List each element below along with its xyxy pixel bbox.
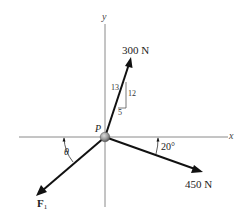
point-P	[100, 132, 110, 142]
point-P-label: P	[95, 124, 101, 134]
arrowhead-icon	[36, 185, 47, 196]
force-F1-arrow	[36, 137, 105, 196]
y-axis-label: y	[102, 12, 106, 22]
slope-vertical-label: 12	[128, 90, 136, 98]
force-450N-arrow	[105, 137, 203, 173]
arrowhead-icon	[191, 165, 203, 173]
force-F1-subscript: 1	[44, 203, 48, 211]
slope-horizontal-label: 5	[118, 109, 122, 117]
force-F1-label: F1	[37, 198, 47, 211]
arc-arrow-icon	[157, 138, 160, 142]
angle-20-label: 20°	[161, 142, 175, 152]
slope-hypotenuse-label: 13	[111, 84, 119, 92]
force-300N-label: 300 N	[122, 45, 149, 56]
angle-theta-label: θ	[64, 147, 69, 157]
diagram-svg	[0, 0, 248, 224]
arrowhead-icon	[125, 57, 133, 68]
force-450N-label: 450 N	[185, 179, 212, 190]
force-F1-symbol: F	[37, 197, 44, 209]
arc-arrow-icon	[63, 138, 66, 142]
x-axis-label: x	[229, 131, 233, 141]
